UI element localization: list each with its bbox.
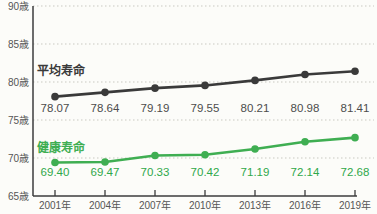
value-label-1-2010: 70.42 <box>191 166 220 178</box>
value-label-0-2001: 78.07 <box>41 102 70 114</box>
value-label-1-2013: 71.19 <box>241 166 270 178</box>
data-point-0-2004 <box>101 89 109 97</box>
data-point-0-2019 <box>351 67 359 75</box>
data-point-1-2004 <box>101 158 109 166</box>
value-label-0-2007: 79.19 <box>141 102 170 114</box>
value-label-1-2007: 70.33 <box>141 166 170 178</box>
x-tick-label-2010: 2010年 <box>189 199 221 211</box>
x-tick-label-2016: 2016年 <box>289 199 321 211</box>
data-point-1-2013 <box>251 145 259 153</box>
data-point-0-2016 <box>301 71 309 79</box>
y-tick-label-85: 85歳 <box>8 39 29 50</box>
data-point-0-2001 <box>51 93 59 101</box>
series-line-1 <box>55 138 355 163</box>
series-name-label-0: 平均寿命 <box>37 63 86 78</box>
value-label-1-2016: 72.14 <box>291 166 320 178</box>
y-tick-label-80: 80歳 <box>8 77 29 88</box>
data-point-1-2016 <box>301 138 309 146</box>
y-tick-label-90: 90歳 <box>8 1 29 12</box>
data-point-0-2013 <box>251 77 259 85</box>
life-expectancy-chart: 90歳85歳80歳75歳70歳65歳2001年2004年2007年2010年20… <box>0 0 377 214</box>
x-tick-label-2013: 2013年 <box>239 199 271 211</box>
x-tick-label-2004: 2004年 <box>89 199 121 211</box>
value-label-0-2010: 79.55 <box>191 102 220 114</box>
data-point-0-2010 <box>201 82 209 90</box>
value-label-0-2013: 80.21 <box>241 102 270 114</box>
value-label-1-2001: 69.40 <box>41 166 70 178</box>
series-name-label-1: 健康寿命 <box>37 140 86 155</box>
data-point-0-2007 <box>151 84 159 92</box>
data-point-1-2019 <box>351 134 359 142</box>
y-tick-label-70: 70歳 <box>8 153 29 164</box>
line-chart-svg: 90歳85歳80歳75歳70歳65歳2001年2004年2007年2010年20… <box>0 0 377 214</box>
x-tick-label-2001: 2001年 <box>39 199 71 211</box>
x-tick-label-2007: 2007年 <box>139 199 171 211</box>
y-tick-label-75: 75歳 <box>8 115 29 126</box>
value-label-1-2019: 72.68 <box>341 166 370 178</box>
y-tick-label-65: 65歳 <box>8 191 29 202</box>
data-point-1-2007 <box>151 152 159 160</box>
data-point-1-2010 <box>201 151 209 159</box>
x-tick-label-2019: 2019年 <box>339 199 371 211</box>
value-label-0-2019: 81.41 <box>341 102 370 114</box>
value-label-0-2004: 78.64 <box>91 102 120 114</box>
value-label-1-2004: 69.47 <box>91 166 120 178</box>
value-label-0-2016: 80.98 <box>291 102 320 114</box>
